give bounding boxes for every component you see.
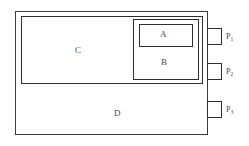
port-label-p2: P2	[226, 67, 233, 76]
region-c-label: C	[75, 45, 81, 55]
port-label-p3: P3	[226, 105, 233, 114]
port-tab-p3	[207, 101, 222, 118]
port-label-p2-subscript: 2	[230, 71, 233, 77]
region-d-label: D	[114, 108, 121, 118]
port-tab-p2	[207, 63, 222, 80]
port-label-p3-subscript: 3	[230, 109, 233, 115]
diagram-canvas: A B C D P1 P2 P3	[0, 0, 249, 146]
region-a-label: A	[160, 29, 167, 39]
port-label-p1-subscript: 1	[230, 36, 233, 42]
port-tab-p1	[207, 28, 222, 45]
region-b-label: B	[161, 57, 167, 67]
port-label-p1: P1	[226, 32, 233, 41]
